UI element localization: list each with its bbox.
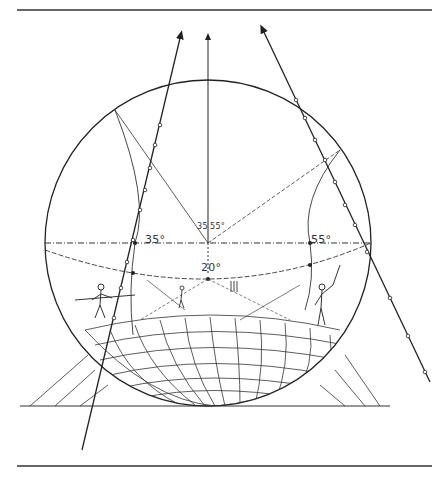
angle-label-right: 55°	[311, 233, 331, 246]
diagram-drawing	[0, 0, 447, 480]
figure-left-tightrope	[75, 284, 135, 318]
meridian-right	[305, 150, 340, 310]
angle-label-20: 20°	[201, 261, 221, 274]
ray-35	[115, 110, 208, 243]
ray-55	[208, 150, 340, 243]
figure-center	[179, 281, 237, 308]
apex-label-55: 55°	[210, 222, 225, 231]
ground-lines	[20, 355, 390, 406]
apex-label-35: 35	[197, 222, 208, 231]
figure: 35° 55° 20° 35 55°	[0, 0, 447, 480]
figure-right-standing	[315, 265, 340, 325]
angle-label-left: 35°	[145, 233, 165, 246]
grid-floor	[85, 315, 350, 406]
